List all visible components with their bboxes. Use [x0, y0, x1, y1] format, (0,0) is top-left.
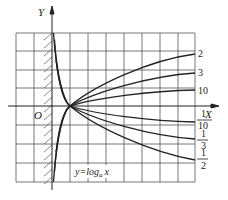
label-base-3: 3 [198, 67, 203, 78]
curve-base-10 [56, 60, 195, 106]
formula: y=logax [74, 165, 116, 179]
formula-sub: a [99, 171, 103, 179]
grid [16, 33, 195, 182]
formula-var: x [103, 166, 109, 177]
y-axis-label: Y [38, 6, 46, 18]
curve-base-1-10 [56, 106, 195, 152]
axis-labels: Y X O [34, 6, 213, 121]
x-axis-arrow-icon [211, 104, 219, 108]
curve-base-3 [55, 40, 196, 106]
y-axis-arrow-icon [50, 6, 54, 14]
log-function-figure: Y X O 2 3 10 1 10 1 3 1 2 y=logax [0, 0, 228, 200]
label-base-1-3-num: 1 [201, 128, 206, 139]
curve-base-1-3 [55, 106, 196, 172]
axes [8, 6, 219, 190]
formula-main: y=log [74, 166, 99, 177]
label-base-1-10-num: 1 [201, 108, 206, 119]
label-base-2: 2 [198, 48, 203, 59]
label-base-10: 10 [198, 85, 208, 96]
label-base-1-2-den: 2 [201, 160, 206, 171]
asymptote-hatching [44, 33, 52, 184]
origin-label: O [34, 109, 42, 121]
label-base-1-2-num: 1 [201, 147, 206, 158]
